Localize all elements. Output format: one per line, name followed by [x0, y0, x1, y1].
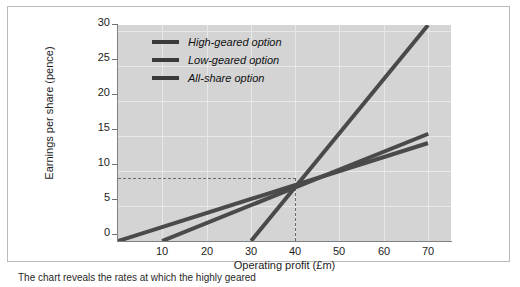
gridline-y-5: [118, 206, 451, 207]
legend-label-all-share: All-share option: [188, 72, 264, 84]
x-axis-label: Operating profit (£m): [118, 259, 451, 271]
y-axis-line: [117, 25, 118, 242]
y-tick-20: 20: [86, 87, 110, 98]
y-axis-tick-labels: 0 5 10 15 20 25 30: [82, 7, 110, 287]
y-tick-15: 15: [86, 122, 110, 133]
legend-label-low-geared: Low-geared option: [188, 54, 279, 66]
guide-line-horizontal: [118, 178, 296, 179]
y-tick-0: 0: [86, 227, 110, 238]
legend-item-all-share: All-share option: [152, 69, 342, 87]
x-tick-50: 50: [324, 245, 354, 257]
x-axis-line: [118, 241, 452, 242]
y-tick-5: 5: [86, 192, 110, 203]
legend-item-low-geared: Low-geared option: [152, 51, 342, 69]
gridline-y-20: [118, 101, 451, 102]
legend-swatch-icon-high-geared: [152, 40, 179, 44]
chart-legend: High-geared option Low-geared option All…: [152, 33, 342, 87]
y-axis-label: Earnings per share (pence): [43, 28, 55, 198]
gridline-y-30: [118, 31, 451, 32]
plot-area: High-geared option Low-geared option All…: [118, 25, 451, 241]
legend-swatch-icon-low-geared: [152, 58, 179, 62]
x-tick-70: 70: [413, 245, 443, 257]
x-tick-30: 30: [236, 245, 266, 257]
gridline-y-10: [118, 171, 451, 172]
figure-frame: Earnings per share (pence) 0 5 10 15 20 …: [7, 6, 510, 262]
legend-item-high-geared: High-geared option: [152, 33, 342, 51]
gridline-x-60: [384, 25, 385, 241]
x-tick-60: 60: [369, 245, 399, 257]
gridline-x-70: [428, 25, 429, 241]
y-tick-10: 10: [86, 157, 110, 168]
x-tick-20: 20: [192, 245, 222, 257]
x-tick-40: 40: [280, 245, 310, 257]
y-tick-25: 25: [86, 52, 110, 63]
x-tick-10: 10: [147, 245, 177, 257]
gridline-y-15: [118, 136, 451, 137]
legend-swatch-icon-all-share: [152, 76, 179, 80]
legend-label-high-geared: High-geared option: [188, 36, 282, 48]
y-tick-30: 30: [86, 17, 110, 28]
series-line-all-share: [118, 141, 429, 241]
figure-caption: The chart reveals the rates at which the…: [18, 272, 498, 283]
